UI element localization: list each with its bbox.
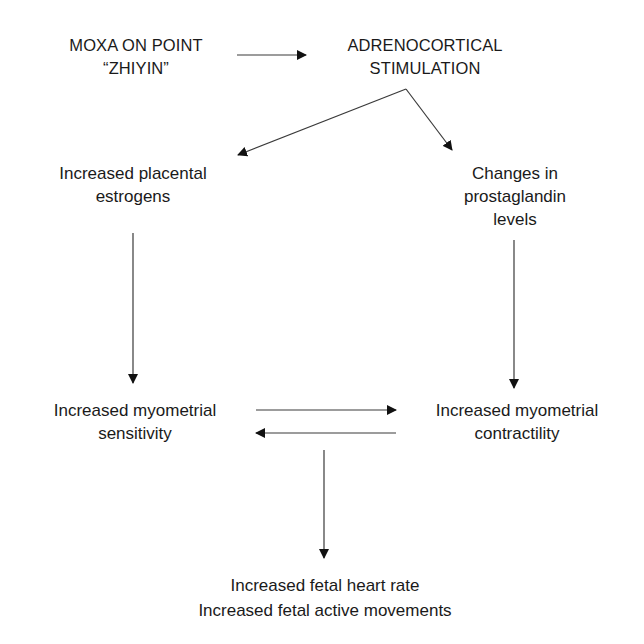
node-prostaglandin: Changes in prostaglandin levels (440, 162, 590, 231)
node-sensitivity-line2: sensitivity (20, 422, 250, 445)
arrow-adreno-to-prostaglandin (406, 89, 452, 150)
node-fetal-line1: Increased fetal heart rate (160, 573, 490, 598)
node-fetal-line2: Increased fetal active movements (160, 598, 490, 623)
node-myometrial-sensitivity: Increased myometrial sensitivity (20, 399, 250, 445)
node-myometrial-contractility: Increased myometrial contractility (402, 399, 632, 445)
node-contractility-line2: contractility (402, 422, 632, 445)
node-adreno-line2: STIMULATION (318, 57, 532, 80)
node-adreno-line1: ADRENOCORTICAL (318, 34, 532, 57)
node-prostaglandin-line1: Changes in (440, 162, 590, 185)
node-estrogens-line1: Increased placental (28, 162, 238, 185)
node-moxa: MOXA ON POINT “ZHIYIN” (48, 34, 224, 80)
node-estrogens-line2: estrogens (28, 185, 238, 208)
node-moxa-line2: “ZHIYIN” (48, 57, 224, 80)
flowchart-canvas: MOXA ON POINT “ZHIYIN” ADRENOCORTICAL ST… (0, 0, 644, 644)
arrows-layer (0, 0, 644, 644)
node-contractility-line1: Increased myometrial (402, 399, 632, 422)
node-prostaglandin-line2: prostaglandin (440, 185, 590, 208)
node-fetal-outcomes: Increased fetal heart rate Increased fet… (160, 573, 490, 623)
arrow-adreno-to-estrogens (238, 89, 406, 155)
node-sensitivity-line1: Increased myometrial (20, 399, 250, 422)
node-placental-estrogens: Increased placental estrogens (28, 162, 238, 208)
node-moxa-line1: MOXA ON POINT (48, 34, 224, 57)
node-prostaglandin-line3: levels (440, 208, 590, 231)
node-adrenocortical: ADRENOCORTICAL STIMULATION (318, 34, 532, 80)
